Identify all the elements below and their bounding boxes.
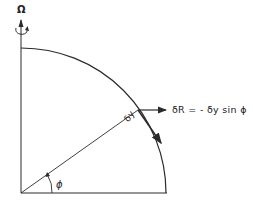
phi-angle-label: ϕ	[56, 179, 63, 190]
diagram-canvas	[0, 0, 253, 205]
rotation-curl-arrowhead	[25, 26, 29, 31]
radius-line	[21, 110, 138, 193]
angle-arc	[48, 175, 53, 193]
omega-label: Ω	[17, 4, 26, 15]
quarter-circle-arc	[21, 48, 166, 193]
rotation-axis-arrowhead	[19, 19, 24, 27]
delta-r-equation: δR = - δy sin ϕ	[172, 104, 247, 115]
delta-y-arrow	[138, 110, 161, 143]
